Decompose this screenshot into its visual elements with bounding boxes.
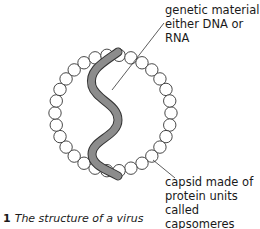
label-line: capsid made of [165,175,260,189]
figure-caption: 1The structure of a virus [3,212,143,225]
capsomere [136,157,148,169]
capsomere [50,119,62,131]
genetic-material-label: genetic material either DNA or RNA [165,3,260,45]
capsomere [165,107,177,119]
capsomere [160,83,172,95]
label-line: genetic material [165,3,260,17]
capsomere [78,57,90,69]
capsomere [164,95,176,107]
capsomere [49,107,61,119]
figure-title: The structure of a virus [15,212,144,225]
capsomere [164,119,176,131]
figure-number: 1 [3,212,11,225]
capsid-label: capsid made of protein units called caps… [165,175,260,229]
capsomere [125,52,137,64]
label-line: protein units called [165,189,260,217]
capsomere [125,162,137,174]
capsomere [50,95,62,107]
label-line: either DNA or RNA [165,17,260,45]
capsomere [54,130,66,142]
label-line: capsomeres [165,217,260,229]
